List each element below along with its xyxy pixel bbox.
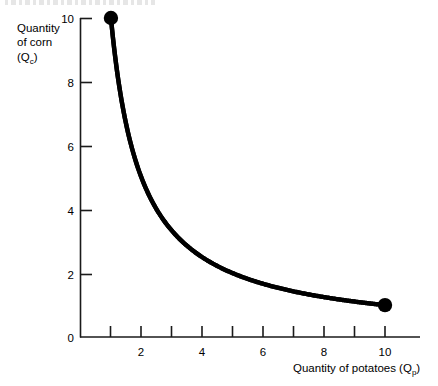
x-axis-ticks [111, 326, 386, 337]
y-tick-label-0: 0 [68, 332, 74, 344]
indifference-curve-tail [111, 18, 385, 305]
indifference-curve-chart: 10 8 6 4 2 0 2 4 6 8 10 Quantity of corn… [0, 0, 438, 386]
x-tick-label-10: 10 [379, 346, 392, 358]
y-axis-ticks [80, 19, 92, 275]
y-axis-title-paren-close: ) [34, 51, 38, 63]
y-tick-label-2: 2 [68, 269, 74, 281]
x-axis-title: Quantity of potatoes (Qp) [293, 362, 420, 377]
y-tick-label-4: 4 [68, 205, 75, 217]
chart-container: 10 8 6 4 2 0 2 4 6 8 10 Quantity of corn… [0, 0, 438, 386]
y-axis-title: Quantity of corn (Qc) [17, 22, 60, 66]
x-axis-title-main: Quantity of potatoes (Q [293, 362, 412, 374]
y-tick-label-10: 10 [61, 13, 74, 25]
axis-lines [80, 18, 420, 338]
x-tick-label-8: 8 [321, 346, 327, 358]
y-tick-labels: 10 8 6 4 2 0 [61, 13, 74, 344]
y-axis-title-line-2: of corn [17, 36, 52, 48]
x-tick-label-4: 4 [199, 346, 206, 358]
x-tick-label-6: 6 [260, 346, 266, 358]
x-axis-title-text: Quantity of potatoes (Qp) [293, 362, 420, 377]
y-axis-title-paren-open: (Q [17, 51, 30, 63]
y-axis-title-line-1: Quantity [17, 22, 60, 34]
y-tick-label-6: 6 [68, 141, 74, 153]
right-endpoint-marker [378, 298, 392, 312]
y-axis-title-line-3: (Qc) [17, 51, 38, 66]
x-tick-label-2: 2 [138, 346, 144, 358]
left-endpoint-marker [104, 11, 118, 25]
x-tick-labels: 2 4 6 8 10 [138, 346, 392, 358]
y-tick-label-8: 8 [68, 77, 74, 89]
indifference-curve-path [111, 18, 385, 305]
x-axis-title-paren-close: ) [416, 362, 420, 374]
